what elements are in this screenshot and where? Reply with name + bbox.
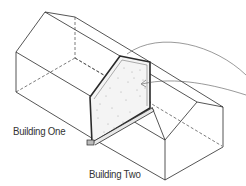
building-illustration [0,0,246,186]
label-building-one: Building One [13,125,65,137]
leader-curve-arrow [142,81,246,95]
diagram-canvas: Building One Building Two [0,0,246,186]
label-building-two: Building Two [89,168,141,180]
firewall [87,56,154,145]
